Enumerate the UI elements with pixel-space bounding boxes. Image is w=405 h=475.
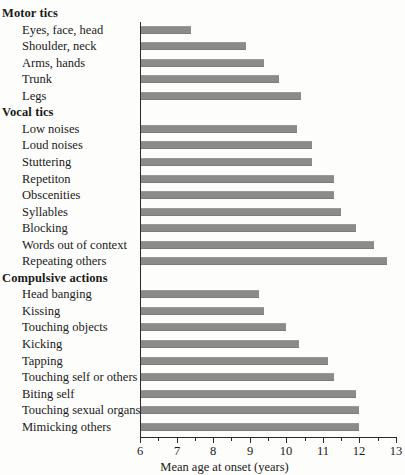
row-label: Stuttering	[0, 154, 156, 171]
x-tick-label: 13	[384, 444, 405, 458]
row-label: Kissing	[0, 303, 156, 320]
x-tick-label: 6	[128, 444, 152, 458]
chart-row: Mimicking others	[0, 419, 405, 436]
row-label: Kicking	[0, 336, 156, 353]
chart-row: Biting self	[0, 386, 405, 403]
bar	[140, 175, 334, 183]
x-tick-minor	[268, 438, 269, 441]
chart-row: Repeating others	[0, 253, 405, 270]
x-tick-major	[177, 438, 178, 443]
bar	[140, 141, 312, 149]
row-label: Touching self or others	[0, 369, 156, 386]
x-tick-major	[213, 438, 214, 443]
chart-group-header: Vocal tics	[0, 104, 405, 121]
chart-row: Obscenities	[0, 187, 405, 204]
row-label: Legs	[0, 88, 156, 105]
x-tick-minor	[305, 438, 306, 441]
bar	[140, 357, 328, 365]
chart-row: Low noises	[0, 121, 405, 138]
x-tick-label: 8	[201, 444, 225, 458]
row-label: Head banging	[0, 286, 156, 303]
chart-row: Trunk	[0, 71, 405, 88]
chart-row: Kissing	[0, 303, 405, 320]
chart-row: Legs	[0, 88, 405, 105]
row-label: Arms, hands	[0, 55, 156, 72]
chart-row: Syllables	[0, 204, 405, 221]
x-tick-major	[323, 438, 324, 443]
row-label: Blocking	[0, 220, 156, 237]
bar	[140, 75, 279, 83]
group-label: Motor tics	[0, 5, 136, 22]
bar	[140, 373, 334, 381]
chart-row: Repetiton	[0, 171, 405, 188]
x-axis-title: Mean age at onset (years)	[22, 460, 405, 475]
bar	[140, 340, 299, 348]
bar	[140, 26, 191, 34]
x-tick-major	[140, 438, 141, 443]
row-label: Words out of context	[0, 237, 156, 254]
row-label: Touching sexual organs	[0, 402, 156, 419]
chart-row: Stuttering	[0, 154, 405, 171]
bar	[140, 125, 297, 133]
bar	[140, 191, 334, 199]
x-tick-label: 11	[311, 444, 335, 458]
chart-group-header: Motor tics	[0, 5, 405, 22]
x-tick-label: 12	[347, 444, 371, 458]
x-tick-label: 10	[274, 444, 298, 458]
chart-row: Words out of context	[0, 237, 405, 254]
x-tick-minor	[195, 438, 196, 441]
x-tick-minor	[341, 438, 342, 441]
bar	[140, 59, 264, 67]
bar	[140, 92, 301, 100]
chart-row: Tapping	[0, 353, 405, 370]
x-tick-major	[359, 438, 360, 443]
x-tick-major	[396, 438, 397, 443]
chart-row: Shoulder, neck	[0, 38, 405, 55]
row-label: Low noises	[0, 121, 156, 138]
chart-group-header: Compulsive actions	[0, 270, 405, 287]
row-label: Repetiton	[0, 171, 156, 188]
chart-row: Kicking	[0, 336, 405, 353]
chart-row: Eyes, face, head	[0, 22, 405, 39]
bar	[140, 290, 259, 298]
chart-row: Blocking	[0, 220, 405, 237]
row-label: Trunk	[0, 71, 156, 88]
row-label: Biting self	[0, 386, 156, 403]
chart-row: Touching self or others	[0, 369, 405, 386]
x-tick-label: 7	[165, 444, 189, 458]
row-label: Eyes, face, head	[0, 22, 156, 39]
bar	[140, 241, 374, 249]
row-label: Syllables	[0, 204, 156, 221]
group-label: Compulsive actions	[0, 270, 136, 287]
chart-row: Head banging	[0, 286, 405, 303]
x-tick-minor	[231, 438, 232, 441]
x-tick-major	[286, 438, 287, 443]
bar	[140, 423, 359, 431]
bar	[140, 158, 312, 166]
row-label: Mimicking others	[0, 419, 156, 436]
chart-row: Arms, hands	[0, 55, 405, 72]
x-tick-minor	[378, 438, 379, 441]
bar	[140, 307, 264, 315]
row-label: Touching objects	[0, 319, 156, 336]
bar	[140, 208, 341, 216]
row-label: Shoulder, neck	[0, 38, 156, 55]
bar	[140, 257, 387, 265]
row-label: Loud noises	[0, 137, 156, 154]
y-axis-line	[140, 22, 141, 437]
bar	[140, 406, 359, 414]
row-label: Tapping	[0, 353, 156, 370]
row-label: Repeating others	[0, 253, 156, 270]
x-tick-minor	[158, 438, 159, 441]
x-tick-label: 9	[238, 444, 262, 458]
bar	[140, 42, 246, 50]
row-label: Obscenities	[0, 187, 156, 204]
chart-row: Loud noises	[0, 137, 405, 154]
bar	[140, 224, 356, 232]
x-tick-major	[250, 438, 251, 443]
bar	[140, 323, 286, 331]
bar	[140, 390, 356, 398]
chart-row: Touching sexual organs	[0, 402, 405, 419]
group-label: Vocal tics	[0, 104, 136, 121]
